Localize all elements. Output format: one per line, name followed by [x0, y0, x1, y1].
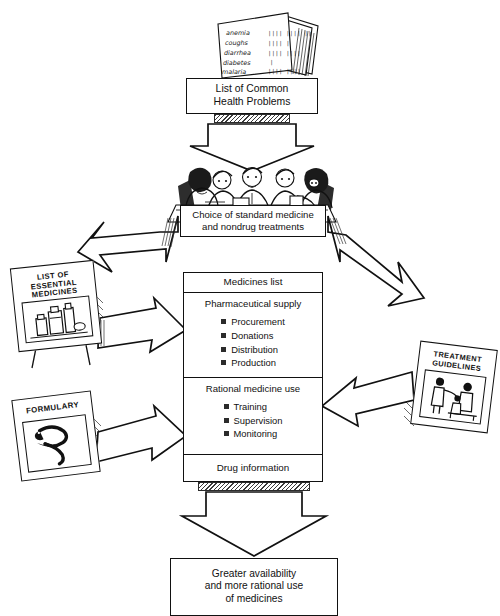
box-medicines-list: Medicines list Pharmaceutical supply Pro…: [183, 272, 323, 482]
medicines-list-title: Medicines list: [184, 273, 322, 293]
paper-entry-0: anemia |||| |||| ||: [226, 29, 312, 37]
paper-entry-1: coughs |||| |: [225, 39, 290, 47]
paper-label: anemia: [226, 29, 250, 37]
list-item: Distribution: [221, 343, 285, 357]
list-item: Production: [221, 356, 285, 370]
supply-item-label: Procurement: [231, 316, 285, 327]
snake-and-staff-icon: [23, 415, 91, 471]
card-list-of-essential-medicines: LIST OF ESSENTIAL MEDICINES: [10, 260, 102, 352]
list-item: Procurement: [221, 315, 285, 329]
paper-entry-4: malaria |||| ||||: [222, 68, 301, 76]
paper-tally: |||| |||| ||: [268, 30, 312, 37]
box-choice-of-standard-medicine: Choice of standard medicine and nondrug …: [180, 205, 326, 237]
bullet-square-icon: [221, 333, 226, 338]
paper-label: diabetes: [223, 59, 251, 67]
paper-label: diarrhea: [224, 49, 251, 57]
shadow-strip-medicines-list: [198, 482, 310, 491]
formulary-inner-frame: [22, 414, 92, 472]
guidelines-inner-frame: [419, 369, 486, 424]
paper-label: coughs: [225, 39, 249, 47]
formulary-line1: FORMULARY: [26, 400, 80, 415]
supply-item-label: Production: [231, 357, 276, 368]
list-item: Monitoring: [224, 427, 283, 441]
bullet-square-icon: [221, 347, 226, 352]
rational-use-item-list: Training Supervision Monitoring: [224, 400, 283, 442]
arrow-guidelines-to-medicines: [322, 372, 414, 426]
choice-line1: Choice of standard medicine: [192, 209, 314, 221]
paper-tally: |||| |: [268, 40, 290, 47]
medicine-bottles-icon: [23, 297, 93, 343]
supply-item-label: Distribution: [231, 344, 278, 355]
list-item: Training: [224, 400, 283, 414]
paper-tally: |||| ||||: [268, 68, 301, 75]
clinician-and-patients-icon: [420, 370, 485, 423]
arrow-problems-to-meeting: [190, 124, 314, 171]
card-treatment-guidelines: TREATMENT GUIDELINES: [410, 341, 498, 434]
eml-inner-frame: [21, 295, 93, 343]
paper-label: malaria: [222, 68, 246, 76]
rational-use-item-label: Monitoring: [234, 428, 278, 439]
outcome-line2: and more rational use: [171, 580, 337, 592]
section-rational-medicine-use: Rational medicine use Training Supervisi…: [184, 378, 322, 455]
choice-line2: and nondrug treatments: [192, 221, 314, 233]
bullet-square-icon: [221, 319, 226, 324]
supply-heading: Pharmaceutical supply: [188, 298, 318, 310]
paper-entry-3: diabetes |: [223, 59, 274, 67]
arrow-medicines-to-outcome: [182, 492, 326, 556]
paper-tally: |||| ||||: [268, 50, 301, 57]
outcome-line1: Greater availability: [171, 568, 337, 580]
arrow-eml-to-medicines: [98, 298, 186, 352]
box-greater-availability-outcome: Greater availability and more rational u…: [170, 558, 338, 616]
bullet-square-icon: [224, 431, 229, 436]
bullet-square-icon: [221, 360, 226, 365]
section-pharmaceutical-supply: Pharmaceutical supply Procurement Donati…: [184, 293, 322, 378]
rational-use-heading: Rational medicine use: [188, 383, 318, 395]
health-problems-line2: Health Problems: [214, 96, 291, 109]
bullet-square-icon: [224, 418, 229, 423]
shadow-strip-health-problems: [214, 114, 290, 123]
list-item: Donations: [221, 329, 285, 343]
paper-tally: |: [270, 59, 274, 66]
arrow-formulary-to-medicines: [93, 406, 186, 462]
outcome-line3: of medicines: [171, 593, 337, 605]
papers-illustration: [218, 13, 318, 78]
supply-item-label: Donations: [231, 330, 273, 341]
list-item: Supervision: [224, 414, 283, 428]
paper-entry-2: diarrhea |||| ||||: [224, 49, 301, 57]
supply-item-list: Procurement Donations Distribution Produ…: [221, 315, 285, 371]
rational-use-item-label: Training: [234, 401, 268, 412]
health-problems-line1: List of Common: [214, 83, 291, 96]
card-formulary: FORMULARY: [11, 390, 100, 481]
bullet-square-icon: [224, 404, 229, 409]
section-drug-information: Drug information: [184, 455, 322, 481]
arrow-meeting-to-guidelines: [328, 216, 424, 306]
rational-use-item-label: Supervision: [234, 415, 283, 426]
box-list-of-common-health-problems: List of Common Health Problems: [186, 78, 318, 114]
